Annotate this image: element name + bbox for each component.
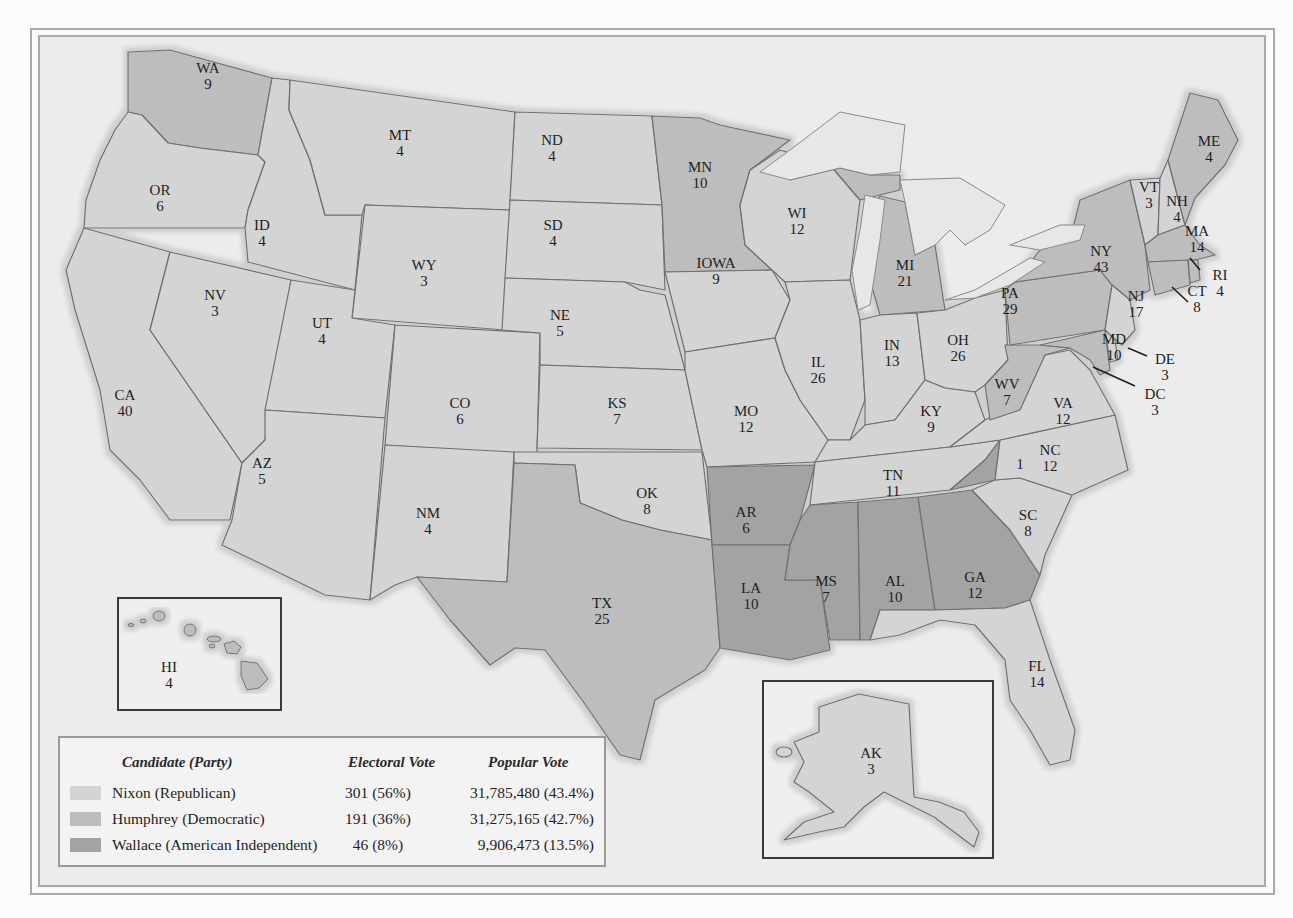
label-mi-abbr: MI <box>896 257 914 273</box>
legend-header-popular: Popular Vote <box>488 754 568 771</box>
label-ma-ev: 14 <box>1190 239 1206 255</box>
label-tx-abbr: TX <box>592 595 612 611</box>
label-ok-ev: 8 <box>643 501 651 517</box>
hawaii-map: HI 4 <box>119 599 280 709</box>
label-mo-ev: 12 <box>739 419 754 435</box>
label-tn-ev: 11 <box>886 483 900 499</box>
nixon-label: Nixon (Republican) <box>112 784 236 802</box>
label-ny-abbr: NY <box>1090 243 1112 259</box>
label-ok-abbr: OK <box>636 485 658 501</box>
label-dc-abbr: DC <box>1145 386 1166 402</box>
label-ky-abbr: KY <box>920 403 942 419</box>
label-ks-ev: 7 <box>613 411 621 427</box>
label-ri-ev: 4 <box>1216 283 1224 299</box>
state-co[interactable] <box>385 325 540 455</box>
state-sd[interactable] <box>505 200 665 290</box>
label-me-abbr: ME <box>1198 133 1221 149</box>
label-in-ev: 13 <box>885 353 900 369</box>
label-sc-ev: 8 <box>1024 523 1032 539</box>
label-al-abbr: AL <box>885 573 905 589</box>
label-nh-ev: 4 <box>1173 209 1181 225</box>
label-nh-abbr: NH <box>1166 193 1188 209</box>
label-nm-ev: 4 <box>424 521 432 537</box>
label-nd-ev: 4 <box>548 148 556 164</box>
label-wa-abbr: WA <box>196 60 219 76</box>
label-vt-ev: 3 <box>1145 195 1153 211</box>
label-mi-ev: 21 <box>898 273 913 289</box>
label-ms-ev: 7 <box>822 589 830 605</box>
label-or-abbr: OR <box>150 182 171 198</box>
label-ut-abbr: UT <box>312 315 332 331</box>
label-mn-abbr: MN <box>688 159 712 175</box>
label-nd-abbr: ND <box>541 132 563 148</box>
label-sd-abbr: SD <box>543 217 562 233</box>
hawaii-inset: HI 4 <box>117 597 282 711</box>
label-wy-ev: 3 <box>420 273 428 289</box>
legend-header-candidate: Candidate (Party) <box>122 754 232 771</box>
label-sc-abbr: SC <box>1019 507 1037 523</box>
lake-huron <box>900 178 1005 255</box>
legend-row-nixon: Nixon (Republican) 301 (56%) 31,785,480 … <box>60 782 604 806</box>
label-vt-abbr: VT <box>1139 179 1159 195</box>
label-ga-ev: 12 <box>968 585 983 601</box>
legend-header-electoral: Electoral Vote <box>348 754 435 771</box>
nixon-popular: 31,785,480 (43.4%) <box>470 784 594 802</box>
label-la-ev: 10 <box>744 596 759 612</box>
island-maui <box>224 641 241 654</box>
humphrey-electoral: 191 (36%) <box>338 810 418 828</box>
legend: Candidate (Party) Electoral Vote Popular… <box>58 736 606 867</box>
label-ks-abbr: KS <box>607 395 626 411</box>
wallace-swatch <box>70 838 101 852</box>
wallace-popular: 9,906,473 (13.5%) <box>478 836 594 854</box>
label-mt-abbr: MT <box>389 127 412 143</box>
label-ar-ev: 6 <box>742 520 750 536</box>
humphrey-label: Humphrey (Democratic) <box>112 810 265 828</box>
label-ms-abbr: MS <box>815 573 837 589</box>
label-pa-ev: 29 <box>1003 301 1018 317</box>
label-id-abbr: ID <box>254 217 270 233</box>
label-ia-ev: 9 <box>712 271 720 287</box>
legend-row-wallace: Wallace (American Independent) 46 (8%) 9… <box>60 834 604 858</box>
label-tn-abbr: TN <box>883 467 903 483</box>
label-nv-abbr: NV <box>204 287 226 303</box>
label-ct-abbr: CT <box>1187 283 1206 299</box>
label-ia-abbr: IOWA <box>696 255 735 271</box>
humphrey-popular: 31,275,165 (42.7%) <box>470 810 594 828</box>
label-ma-abbr: MA <box>1185 223 1209 239</box>
label-wi-abbr: WI <box>787 205 806 221</box>
state-ak[interactable] <box>784 694 979 847</box>
label-nj-abbr: NJ <box>1128 288 1145 304</box>
label-il-abbr: IL <box>811 354 825 370</box>
label-id-ev: 4 <box>258 233 266 249</box>
label-va-abbr: VA <box>1053 395 1073 411</box>
legend-row-humphrey: Humphrey (Democratic) 191 (36%) 31,275,1… <box>60 808 604 832</box>
wallace-electoral: 46 (8%) <box>338 836 418 854</box>
island-molokai <box>207 636 221 642</box>
label-md-ev: 10 <box>1107 347 1122 363</box>
alaska-inset: AK 3 <box>762 680 994 859</box>
label-ne-ev: 5 <box>556 323 564 339</box>
label-wv-ev: 7 <box>1003 392 1011 408</box>
st-lawrence-island <box>776 747 792 757</box>
alaska-map: AK 3 <box>764 682 992 857</box>
label-md-abbr: MD <box>1102 331 1126 347</box>
label-il-ev: 26 <box>811 370 827 386</box>
label-co-abbr: CO <box>450 395 471 411</box>
label-oh-ev: 26 <box>951 348 967 364</box>
state-nd[interactable] <box>510 112 662 205</box>
hi-abbr: HI <box>161 659 177 675</box>
label-va-ev: 12 <box>1056 411 1071 427</box>
label-co-ev: 6 <box>456 411 464 427</box>
state-ct[interactable] <box>1148 260 1190 295</box>
label-ut-ev: 4 <box>318 331 326 347</box>
label-or-ev: 6 <box>156 198 164 214</box>
nixon-swatch <box>70 786 101 800</box>
label-mn-ev: 10 <box>693 175 708 191</box>
label-ca-ev: 40 <box>118 403 133 419</box>
label-ky-ev: 9 <box>927 419 935 435</box>
label-az-abbr: AZ <box>252 455 272 471</box>
label-wi-ev: 12 <box>790 221 805 237</box>
state-nm[interactable] <box>370 445 514 600</box>
label-az-ev: 5 <box>258 471 266 487</box>
island-niihau <box>128 624 134 627</box>
